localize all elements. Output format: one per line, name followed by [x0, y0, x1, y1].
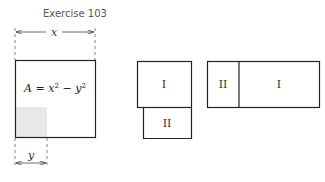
area-formula: A = x2 − y2 [23, 82, 86, 95]
diagram-canvas: x A = x2 − y2 y I II II I [0, 0, 325, 182]
figure-square-difference: x A = x2 − y2 y [15, 26, 96, 168]
region-II-label: II [163, 117, 172, 130]
figure-cut-pieces: I II [138, 62, 192, 139]
region-II-label-rearranged: II [219, 78, 228, 91]
y-dimension-label: y [27, 149, 35, 162]
region-I-label: I [162, 78, 166, 91]
region-I-label-rearranged: I [277, 78, 281, 91]
figure-rearranged-rectangle: II I [208, 62, 320, 108]
shaded-y-square [16, 107, 47, 137]
x-dimension-label: x [51, 26, 58, 39]
exercise-diagram: Exercise 103 x A = x2 − y2 y [0, 0, 325, 182]
